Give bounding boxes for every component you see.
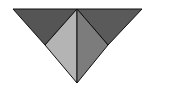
tangram-diagram	[0, 0, 180, 92]
